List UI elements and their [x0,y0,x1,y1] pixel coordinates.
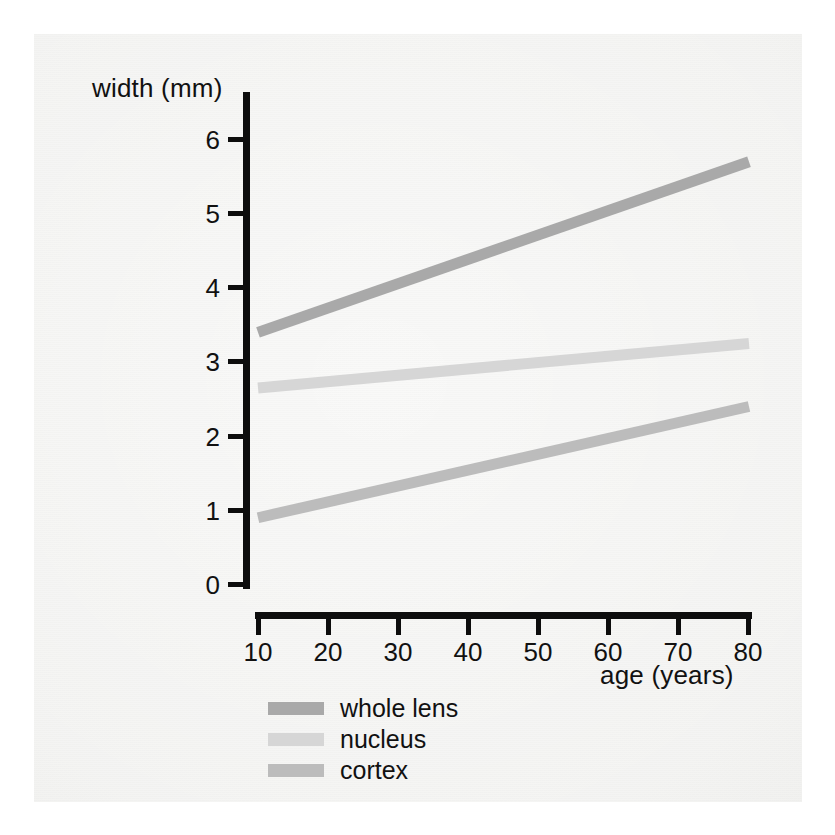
line-chart: width (mm) age (years) 6 5 4 3 2 1 0 10 [0,0,835,835]
legend-label-cortex: cortex [340,756,408,785]
x-tick-label-40: 40 [448,637,488,668]
data-series-group [258,162,749,518]
y-tick-label-6: 6 [190,125,220,156]
legend-label-whole-lens: whole lens [340,694,458,723]
y-tick-label-0: 0 [190,570,220,601]
x-tick-mark-70 [676,619,681,635]
y-tick-mark-5 [228,211,244,216]
y-axis-title: width (mm) [92,73,223,104]
x-tick-label-10: 10 [238,637,278,668]
y-tick-mark-1 [228,508,244,513]
legend-item-cortex: cortex [268,756,408,784]
legend-item-whole-lens: whole lens [268,694,458,722]
x-tick-mark-30 [396,619,401,635]
x-tick-label-50: 50 [518,637,558,668]
x-axis-line [255,612,752,619]
x-tick-label-20: 20 [308,637,348,668]
x-tick-label-30: 30 [378,637,418,668]
x-tick-label-70: 70 [658,637,698,668]
y-tick-label-5: 5 [190,199,220,230]
legend-swatch-whole-lens [268,702,324,715]
y-tick-label-4: 4 [190,273,220,304]
data-line-whole-lens [258,162,749,333]
y-tick-label-1: 1 [190,496,220,527]
y-tick-mark-2 [228,434,244,439]
x-tick-mark-10 [256,619,261,635]
x-tick-label-60: 60 [588,637,628,668]
x-tick-mark-40 [466,619,471,635]
scanned-page: width (mm) age (years) 6 5 4 3 2 1 0 10 [0,0,835,835]
data-line-cortex [258,407,749,518]
x-tick-label-80: 80 [728,637,768,668]
y-tick-mark-0 [228,582,244,587]
legend-swatch-cortex [268,764,324,777]
data-line-nucleus [258,343,749,388]
x-tick-mark-60 [606,619,611,635]
legend-item-nucleus: nucleus [268,725,426,753]
legend-label-nucleus: nucleus [340,725,426,754]
x-tick-mark-20 [326,619,331,635]
x-tick-mark-50 [536,619,541,635]
y-tick-mark-6 [228,137,244,142]
y-axis-line [243,92,250,589]
x-tick-mark-80 [746,619,751,635]
y-tick-label-3: 3 [190,347,220,378]
legend-swatch-nucleus [268,733,324,746]
y-tick-mark-3 [228,359,244,364]
y-tick-mark-4 [228,285,244,290]
y-tick-label-2: 2 [190,422,220,453]
